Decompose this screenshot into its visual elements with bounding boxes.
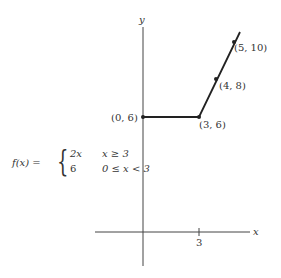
x-axis-label: x [253,226,259,237]
point-label-3-6: (3, 6) [199,119,226,130]
case-1-expr: 2x [70,148,82,159]
point-label-4-8: (4, 8) [219,80,246,91]
case-1-condition: x ≥ 3 [102,148,129,159]
point-label-5-10: (5, 10) [234,42,267,53]
point-4-8 [214,77,218,81]
graph-canvas: y x 3 (0, 6) (3, 6) (4, 8) (5, 10) [0,0,281,278]
point-label-0-6: (0, 6) [111,112,138,123]
formula-lhs: f(x) = [12,157,41,168]
case-2-condition: 0 ≤ x < 3 [102,163,150,174]
x-tick-label: 3 [196,237,202,248]
case-2-expr: 6 [70,163,76,174]
point-0-6 [141,115,145,119]
y-axis-label: y [138,14,145,25]
formula-brace: { [57,146,68,176]
function-graph-line [143,32,240,117]
